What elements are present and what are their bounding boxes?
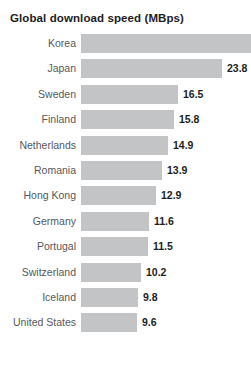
bar-fill	[81, 34, 251, 53]
bar-track: 16.5	[81, 85, 251, 104]
bar-track: 11.6	[81, 212, 251, 231]
bar-value-label: 11.6	[154, 215, 174, 227]
bar-value-label: 11.5	[153, 240, 173, 252]
bar-fill	[81, 85, 178, 104]
bar-fill	[81, 263, 141, 282]
bar-row: Sweden16.5	[0, 85, 251, 110]
bar-category-label: Finland	[0, 113, 76, 125]
bar-row: Iceland9.8	[0, 288, 251, 313]
bar-row: Japan23.8	[0, 59, 251, 84]
bar-fill	[81, 136, 168, 155]
bar-chart: Global download speed (MBps) KoreaJapan2…	[0, 0, 251, 374]
bar-row: Korea	[0, 34, 251, 59]
chart-title: Global download speed (MBps)	[10, 12, 184, 24]
bar-fill	[81, 161, 162, 180]
bar-value-label: 12.9	[161, 189, 181, 201]
bar-fill	[81, 313, 137, 332]
bar-fill	[81, 186, 156, 205]
bar-track: 23.8	[81, 59, 251, 78]
bar-category-label: Switzerland	[0, 266, 76, 278]
bar-fill	[81, 212, 149, 231]
bar-category-label: Hong Kong	[0, 189, 76, 201]
bar-category-label: Romania	[0, 164, 76, 176]
bar-fill	[81, 288, 138, 307]
bar-category-label: Japan	[0, 62, 76, 74]
bar-fill	[81, 110, 174, 129]
bar-value-label: 15.8	[179, 113, 199, 125]
bar-track	[81, 34, 251, 53]
bar-row: United States9.6	[0, 313, 251, 338]
bar-category-label: Iceland	[0, 291, 76, 303]
bar-track: 10.2	[81, 263, 251, 282]
bar-row: Finland15.8	[0, 110, 251, 135]
bar-row: Romania13.9	[0, 161, 251, 186]
bar-category-label: United States	[0, 316, 76, 328]
bar-value-label: 13.9	[167, 164, 187, 176]
bar-category-label: Sweden	[0, 88, 76, 100]
bar-fill	[81, 237, 148, 256]
bar-track: 15.8	[81, 110, 251, 129]
bar-track: 13.9	[81, 161, 251, 180]
bar-track: 9.6	[81, 313, 251, 332]
bar-value-label: 16.5	[183, 88, 203, 100]
bar-value-label: 14.9	[173, 139, 193, 151]
bar-track: 14.9	[81, 136, 251, 155]
bar-category-label: Germany	[0, 215, 76, 227]
bar-track: 12.9	[81, 186, 251, 205]
bar-row: Hong Kong12.9	[0, 186, 251, 211]
bar-category-label: Portugal	[0, 240, 76, 252]
bar-value-label: 23.8	[227, 62, 247, 74]
bar-rows-container: KoreaJapan23.8Sweden16.5Finland15.8Nethe…	[0, 34, 251, 339]
bar-category-label: Korea	[0, 37, 76, 49]
bar-track: 9.8	[81, 288, 251, 307]
bar-fill	[81, 59, 222, 78]
bar-track: 11.5	[81, 237, 251, 256]
bar-value-label: 9.6	[142, 316, 157, 328]
bar-row: Portugal11.5	[0, 237, 251, 262]
bar-value-label: 10.2	[146, 266, 166, 278]
bar-category-label: Netherlands	[0, 139, 76, 151]
bar-row: Switzerland10.2	[0, 263, 251, 288]
bar-row: Germany11.6	[0, 212, 251, 237]
bar-row: Netherlands14.9	[0, 136, 251, 161]
bar-value-label: 9.8	[143, 291, 158, 303]
